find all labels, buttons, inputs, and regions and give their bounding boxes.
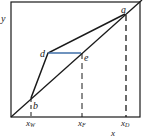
operating-lines xyxy=(31,14,125,98)
xd-tick-label: xD xyxy=(120,118,130,128)
point-e-label: e xyxy=(84,52,89,63)
distillation-diagram: y a d e b xW xF xD x xyxy=(0,0,143,139)
x-axis-label: x xyxy=(110,128,115,138)
point-d-label: d xyxy=(40,48,46,59)
y-axis-label: y xyxy=(0,13,6,24)
xf-tick-label: xF xyxy=(77,118,86,128)
xw-tick-label: xW xyxy=(25,118,36,128)
point-a-label: a xyxy=(121,4,126,15)
point-b-label: b xyxy=(33,100,38,111)
